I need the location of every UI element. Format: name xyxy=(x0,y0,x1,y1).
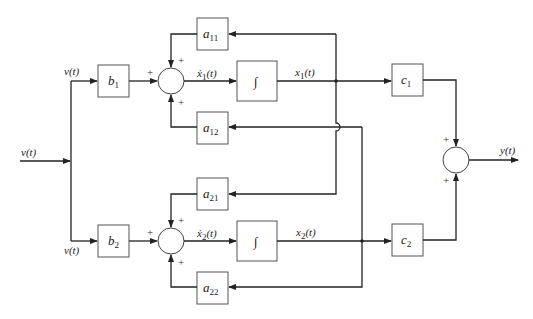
output-summing-junction xyxy=(443,147,469,173)
x2dot-label: ẋ2(t) xyxy=(196,227,217,242)
sum1-bottom-plus: + xyxy=(178,96,184,108)
integrator-1: ∫ xyxy=(237,61,277,101)
branch-top-label: v(t) xyxy=(64,65,80,78)
input-label: v(t) xyxy=(21,146,37,159)
branch-bottom-label: v(t) xyxy=(64,244,80,257)
x1dot-label: ẋ1(t) xyxy=(196,67,217,82)
block-b2: b2 xyxy=(98,225,129,257)
block-a11: a11 xyxy=(197,18,228,50)
block-a21: a21 xyxy=(197,178,228,210)
block-c1: c1 xyxy=(392,64,423,96)
sum2-bottom-plus: + xyxy=(178,256,184,268)
block-b1: b1 xyxy=(98,65,129,97)
integrator-2: ∫ xyxy=(237,221,277,261)
x2-label: x2(t) xyxy=(295,226,316,241)
sum2-top-plus: + xyxy=(178,214,184,226)
sum1-top-plus: + xyxy=(178,54,184,66)
input-signal: v(t) xyxy=(20,146,70,161)
sum1-left-plus: + xyxy=(147,66,153,78)
out-sum-top-plus: + xyxy=(443,133,449,145)
x1-label: x1(t) xyxy=(294,66,315,81)
summing-junction-1 xyxy=(158,68,184,94)
block-a22: a22 xyxy=(197,272,228,304)
block-c2: c2 xyxy=(392,224,423,256)
block-a12: a12 xyxy=(197,112,228,144)
out-sum-bottom-plus: + xyxy=(443,174,449,186)
sum2-left-plus: + xyxy=(147,226,153,238)
block-diagram: v(t) v(t) v(t) b1 + + + ẋ1(t) ∫ x1(t) a1… xyxy=(0,0,533,319)
output-label: y(t) xyxy=(499,144,516,157)
summing-junction-2 xyxy=(158,228,184,254)
